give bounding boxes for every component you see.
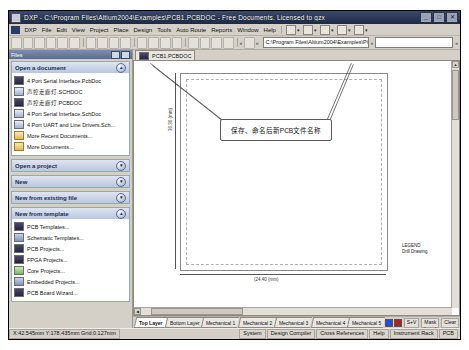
menu-item-file[interactable]: File	[39, 27, 54, 33]
open-file-icon[interactable]	[23, 37, 34, 49]
section-header-new-from-existing-file[interactable]: New from existing file ▾	[12, 192, 129, 203]
menu-item-window[interactable]: Window	[235, 27, 261, 33]
menu-item-view[interactable]: View	[69, 27, 87, 33]
menu-item-place[interactable]: Place	[111, 27, 131, 33]
menu-item-reports[interactable]: Reports	[209, 27, 235, 33]
panel-button-system[interactable]: System	[239, 329, 265, 339]
menu-item-dxp[interactable]: DXP	[22, 27, 39, 33]
vertical-scroll-thumb[interactable]	[452, 70, 459, 120]
back-arrow-icon[interactable]	[303, 25, 313, 35]
horizontal-scrollbar[interactable]: ◀	[134, 307, 452, 315]
menu-item-design[interactable]: Design	[131, 27, 155, 33]
list-item[interactable]: Embedded Projects...	[14, 276, 127, 287]
vertical-scrollbar[interactable]: ▲	[451, 61, 459, 308]
menu-item-edit[interactable]: Edit	[54, 27, 69, 33]
section-header-open-a-project[interactable]: Open a project ▾	[12, 160, 129, 171]
list-item[interactable]: PCB Projects...	[14, 243, 127, 254]
measure-icon[interactable]	[211, 37, 222, 49]
menu-item-auto-route[interactable]: Auto Route	[174, 27, 209, 33]
chevron-down-icon-2[interactable]: ▾	[314, 27, 317, 33]
list-item[interactable]: 4 Port Serial Interface.SchDoc	[14, 108, 127, 119]
layer-tab-mechanical-5[interactable]: Mechanical 5	[347, 317, 386, 328]
search-input[interactable]	[375, 37, 453, 48]
panel-pin-icon[interactable]	[111, 51, 120, 59]
browse-icon[interactable]	[337, 25, 347, 35]
scroll-left-arrow-icon[interactable]: ◀	[134, 308, 141, 315]
chevron-down-icon-6[interactable]: »	[239, 40, 242, 46]
mask-level-button[interactable]: Mask Level	[421, 318, 439, 328]
layer-tab-bottom-layer[interactable]: Bottom Layer	[164, 317, 203, 328]
toolbar-overflow-icon[interactable]: »	[455, 40, 458, 46]
list-item[interactable]: Core Projects...	[14, 265, 127, 276]
open-document-icon[interactable]	[286, 25, 296, 35]
list-item[interactable]: 4 Port UART and Line Drivers.Sch...	[14, 119, 127, 130]
list-item[interactable]: More Documents...	[14, 141, 127, 152]
list-item[interactable]: PCB Board Wizard...	[14, 287, 127, 298]
collapse-toggle-icon[interactable]: ▴	[116, 63, 126, 73]
panel-close-icon[interactable]	[121, 51, 130, 59]
clear-button[interactable]: Clear	[441, 318, 459, 328]
layer-tab-mechanical-3[interactable]: Mechanical 3	[274, 317, 313, 328]
fit-document-icon[interactable]	[86, 37, 97, 49]
list-item[interactable]: PCB Templates...	[14, 221, 127, 232]
document-tab-pcb1[interactable]: PCB1.PCBDOC	[135, 50, 195, 60]
chevron-down-icon-5[interactable]: ▾	[365, 27, 368, 33]
scroll-up-arrow-icon[interactable]: ▲	[452, 61, 459, 68]
list-item[interactable]: 声控走廊灯.SCHDOC	[14, 86, 127, 97]
layer-tab-mechanical-2[interactable]: Mechanical 2	[238, 317, 277, 328]
panel-button-design-compiler[interactable]: Design Compiler	[267, 329, 316, 339]
pcb-canvas[interactable]: 36.30 (mm) (24.40 (mm) LEGEND Drill Draw…	[133, 60, 460, 316]
panel-button-cross-references[interactable]: Cross References	[316, 329, 368, 339]
section-header-open-a-document[interactable]: Open a document ▴	[12, 62, 129, 73]
chevron-down-icon-3[interactable]: ▾	[331, 27, 334, 33]
panel-button-help[interactable]: Help	[369, 329, 388, 339]
files-panel-body[interactable]: Open a document ▴ 4 Port Serial Interfac…	[9, 59, 132, 328]
fit-board-icon[interactable]	[97, 37, 108, 49]
layer-color-swatches[interactable]	[385, 319, 402, 327]
cut-icon[interactable]	[137, 37, 148, 49]
route-icon[interactable]	[223, 37, 234, 49]
section-header-new-from-template[interactable]: New from template ▴	[12, 208, 129, 219]
browse-back-icon[interactable]	[244, 37, 255, 49]
save-icon[interactable]	[34, 37, 45, 49]
forward-arrow-icon[interactable]	[320, 25, 330, 35]
chevron-down-icon-8[interactable]: »	[371, 40, 374, 46]
print-icon[interactable]	[46, 37, 57, 49]
layer-tab-top-layer[interactable]: Top Layer	[134, 317, 167, 328]
copy-icon[interactable]	[148, 37, 159, 49]
collapse-toggle-icon[interactable]: ▴	[116, 209, 126, 219]
crosshair-icon[interactable]	[200, 37, 211, 49]
panel-button-instrument-rack[interactable]: Instrument Rack	[390, 329, 438, 339]
section-header-new[interactable]: New ▾	[12, 176, 129, 187]
new-file-icon[interactable]	[11, 37, 22, 49]
place-rect-icon[interactable]	[188, 37, 199, 49]
layer-swatch-red-icon[interactable]	[394, 319, 402, 327]
address-bar[interactable]: C:\Program Files\Altium2004\Examples\PCB…	[263, 37, 369, 48]
collapse-toggle-icon[interactable]: ▾	[116, 177, 126, 187]
chevron-down-icon-4[interactable]: ▾	[348, 27, 351, 33]
menu-item-help[interactable]: Help	[261, 27, 278, 33]
print-preview-icon[interactable]	[57, 37, 68, 49]
panel-button-pcb[interactable]: PCB	[439, 329, 458, 339]
check-icon[interactable]	[120, 37, 131, 49]
list-item[interactable]: 4 Port Serial Interface.PcbDoc	[14, 75, 127, 86]
horizontal-scroll-thumb[interactable]	[151, 308, 243, 315]
list-item[interactable]: More Recent Documents...	[14, 130, 127, 141]
list-item[interactable]: 声控走廊灯.PCBDOC	[14, 97, 127, 108]
chevron-down-icon-7[interactable]: »	[256, 40, 259, 46]
collapse-toggle-icon[interactable]: ▾	[116, 193, 126, 203]
layer-swatch-blue-icon[interactable]	[385, 319, 393, 327]
paste-icon[interactable]	[160, 37, 171, 49]
zoom-area-icon[interactable]	[109, 37, 120, 49]
menu-item-tools[interactable]: Tools	[155, 27, 174, 33]
chevron-down-icon-1[interactable]: ▾	[297, 27, 300, 33]
grid-icon[interactable]	[354, 25, 364, 35]
list-item[interactable]: FPGA Projects...	[14, 254, 127, 265]
list-item[interactable]: Schematic Templates...	[14, 232, 127, 243]
minimize-button[interactable]: _	[420, 12, 432, 23]
menu-item-project[interactable]: Project	[87, 27, 111, 33]
undo-icon[interactable]	[172, 37, 183, 49]
close-button[interactable]: ✕	[446, 12, 458, 23]
zoom-icon[interactable]	[69, 37, 80, 49]
single-layer-mode-button[interactable]: S+V	[404, 318, 420, 328]
